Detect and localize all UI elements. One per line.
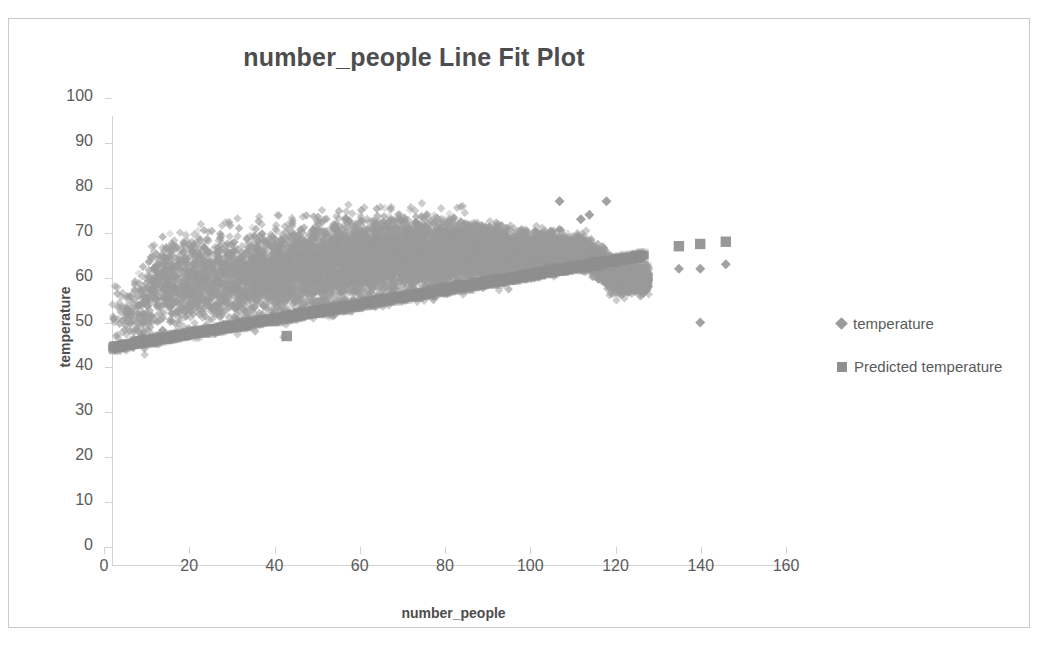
y-tick: [105, 457, 112, 458]
y-tick-label: 100: [39, 87, 93, 105]
chart-legend: temperature Predicted temperature: [837, 315, 1037, 401]
x-tick-label: 20: [159, 557, 219, 575]
x-tick: [189, 547, 190, 554]
y-tick-label: 50: [39, 312, 93, 330]
x-tick-label: 60: [330, 557, 390, 575]
x-tick-label: 140: [671, 557, 731, 575]
diamond-marker-icon: [835, 317, 848, 330]
y-tick-label: 90: [39, 132, 93, 150]
x-tick: [360, 547, 361, 554]
y-tick: [105, 233, 112, 234]
y-tick: [105, 278, 112, 279]
x-tick: [701, 547, 702, 554]
y-tick: [105, 367, 112, 368]
y-tick: [105, 188, 112, 189]
legend-item-temperature: temperature: [837, 315, 1037, 332]
x-tick: [530, 547, 531, 554]
y-tick: [105, 412, 112, 413]
x-tick-label: 120: [586, 557, 646, 575]
x-tick-label: 80: [415, 557, 475, 575]
y-tick: [105, 143, 112, 144]
x-tick-label: 0: [74, 557, 134, 575]
y-tick-label: 40: [39, 356, 93, 374]
x-tick: [616, 547, 617, 554]
x-tick: [786, 547, 787, 554]
y-tick: [105, 323, 112, 324]
y-tick-label: 60: [39, 267, 93, 285]
legend-label-temperature: temperature: [853, 315, 934, 332]
y-tick-label: 10: [39, 491, 93, 509]
y-tick-label: 70: [39, 222, 93, 240]
x-tick-label: 100: [500, 557, 560, 575]
x-tick-label: 160: [756, 557, 816, 575]
square-marker-icon: [837, 362, 847, 372]
legend-item-predicted-temperature: Predicted temperature: [837, 358, 1037, 375]
y-tick-label: 20: [39, 446, 93, 464]
x-tick: [104, 547, 105, 554]
y-tick-label: 80: [39, 177, 93, 195]
x-tick-label: 40: [245, 557, 305, 575]
legend-label-predicted-temperature: Predicted temperature: [854, 358, 1002, 375]
chart-frame: number_people Line Fit Plot temperature …: [8, 18, 1030, 628]
x-tick: [275, 547, 276, 554]
x-tick: [445, 547, 446, 554]
y-tick: [105, 98, 112, 99]
y-tick: [105, 502, 112, 503]
y-tick-label: 0: [39, 536, 93, 554]
y-tick: [105, 547, 112, 548]
y-tick-label: 30: [39, 401, 93, 419]
